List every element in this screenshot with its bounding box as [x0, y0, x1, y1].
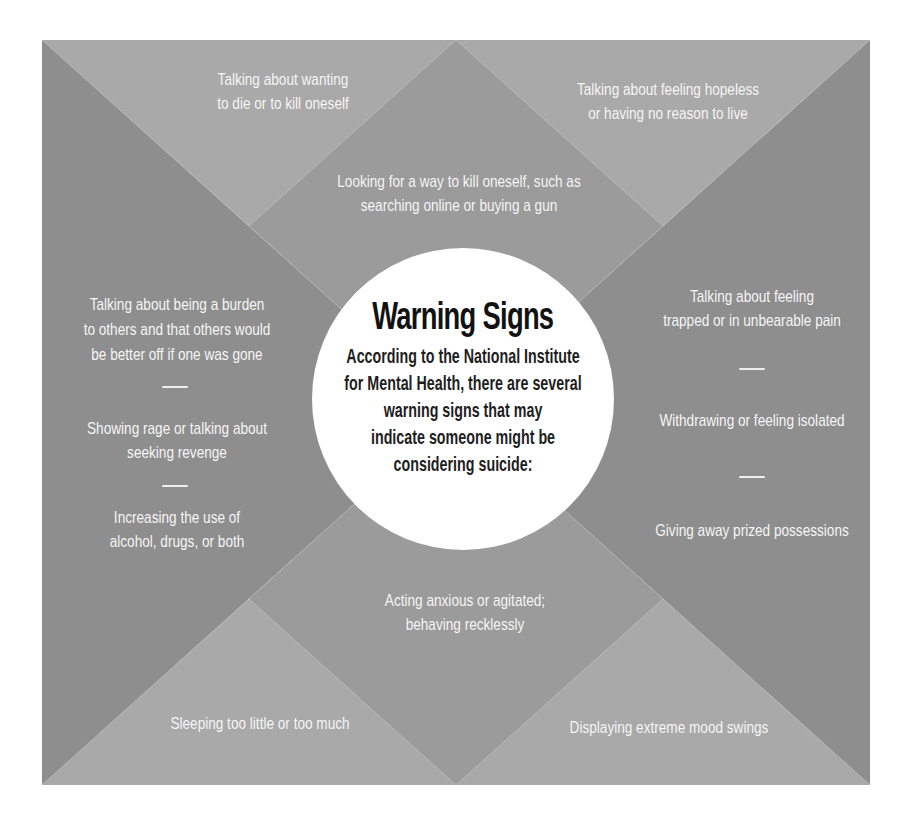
warning-item-right-group2: Withdrawing or feeling isolated	[632, 409, 872, 433]
divider-dash	[162, 485, 188, 487]
warning-item-right-group1: Talking about feeling trapped or in unbe…	[632, 285, 872, 333]
warning-item-left-group1: Talking about being a burden to others a…	[65, 292, 289, 367]
warning-item-bottom-left: Sleeping too little or too much	[140, 712, 380, 736]
divider-dash	[162, 386, 188, 388]
item-line: Increasing the use of	[65, 506, 289, 530]
item-line: Talking about being a burden	[65, 292, 289, 317]
item-line: searching online or buying a gun	[299, 194, 619, 218]
warning-item-bottom-center: Acting anxious or agitated; behaving rec…	[329, 589, 601, 637]
circle-description-line: for Mental Health, there are several	[334, 369, 592, 396]
item-line: Sleeping too little or too much	[140, 712, 380, 736]
item-line: Showing rage or talking about	[65, 417, 289, 441]
item-line: be better off if one was gone	[65, 342, 289, 367]
circle-description-line: indicate someone might be	[334, 423, 592, 450]
warning-item-left-group2: Showing rage or talking about seeking re…	[65, 417, 289, 465]
item-line: alcohol, drugs, or both	[65, 530, 289, 554]
circle-description: According to the National Institute for …	[334, 342, 592, 477]
item-line: Talking about feeling hopeless	[548, 78, 788, 102]
infographic-canvas: Talking about wanting to die or to kill …	[0, 0, 915, 813]
warning-item-bottom-right: Displaying extreme mood swings	[541, 716, 797, 740]
circle-description-line: According to the National Institute	[334, 342, 592, 369]
item-line: Talking about feeling	[632, 285, 872, 309]
item-line: Giving away prized possessions	[632, 519, 872, 543]
divider-dash	[739, 476, 765, 478]
warning-item-top-left: Talking about wanting to die or to kill …	[163, 68, 403, 116]
warning-item-top-right: Talking about feeling hopeless or having…	[548, 78, 788, 126]
warning-item-left-group3: Increasing the use of alcohol, drugs, or…	[65, 506, 289, 554]
divider-dash	[739, 368, 765, 370]
item-line: Looking for a way to kill oneself, such …	[299, 170, 619, 194]
item-line: Acting anxious or agitated;	[329, 589, 601, 613]
item-line: Withdrawing or feeling isolated	[632, 409, 872, 433]
warning-item-right-group3: Giving away prized possessions	[632, 519, 872, 543]
warning-item-top-center: Looking for a way to kill oneself, such …	[299, 170, 619, 218]
item-line: seeking revenge	[65, 441, 289, 465]
center-circle: Warning Signs According to the National …	[312, 248, 614, 550]
circle-description-line: warning signs that may	[334, 396, 592, 423]
item-line: or having no reason to live	[548, 102, 788, 126]
item-line: to others and that others would	[65, 317, 289, 342]
item-line: Talking about wanting	[163, 68, 403, 92]
item-line: behaving recklessly	[329, 613, 601, 637]
item-line: Displaying extreme mood swings	[541, 716, 797, 740]
item-line: trapped or in unbearable pain	[632, 309, 872, 333]
item-line: to die or to kill oneself	[163, 92, 403, 116]
circle-title: Warning Signs	[372, 294, 553, 338]
circle-description-line: considering suicide:	[334, 450, 592, 477]
